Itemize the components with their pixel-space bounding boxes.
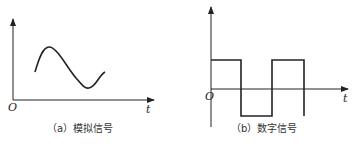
analog-waveform [35, 47, 105, 88]
square-waveform [211, 60, 304, 116]
time-axis-label-a: t [146, 103, 150, 116]
caption-analog: （a）模拟信号 [47, 120, 113, 135]
analog-signal-plot [13, 19, 154, 100]
origin-label-b: O [205, 90, 214, 103]
digital-signal-plot [211, 7, 348, 127]
origin-label-a: O [8, 101, 17, 114]
time-axis-label-b: t [343, 92, 347, 105]
caption-digital: （b）数字信号 [231, 120, 297, 135]
